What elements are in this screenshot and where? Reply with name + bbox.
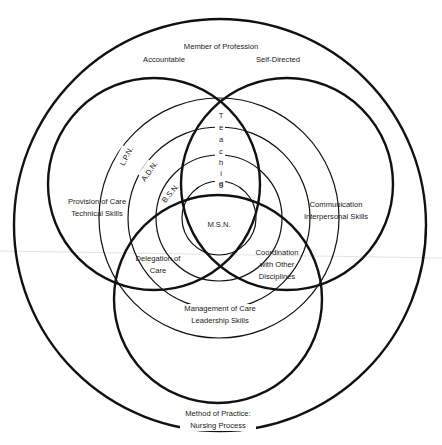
care-label: Care — [150, 266, 166, 275]
communication-label: Communication — [310, 200, 363, 209]
disciplines-label: Disciplines — [259, 272, 295, 281]
self-directed-label: Self-Directed — [256, 55, 300, 64]
msn-label: M.S.N. — [207, 220, 230, 229]
nursing-education-venn-diagram: Member of Profession Accountable Self-Di… — [0, 0, 442, 445]
accountable-label: Accountable — [143, 55, 185, 64]
delegation-of-label: Delegation of — [136, 254, 182, 263]
teaching-letter: e — [219, 123, 223, 132]
leadership-skills-label: Leadership Skills — [191, 316, 249, 325]
management-of-care-label: Management of Care — [184, 304, 255, 313]
method-of-practice-label: Method of Practice: — [185, 409, 250, 418]
with-other-label: with Other — [259, 260, 295, 269]
coordination-label: Coordination — [255, 248, 298, 257]
nursing-process-label: Nursing Process — [190, 421, 246, 430]
teaching-letter: h — [219, 158, 223, 167]
technical-skills-label: Technical Skills — [71, 209, 123, 218]
interpersonal-skills-label: Interpersonal Skills — [304, 212, 368, 221]
teaching-letter: T — [219, 111, 224, 120]
communication-circle — [181, 78, 393, 290]
member-of-profession-label: Member of Profession — [184, 42, 258, 51]
provision-of-care-label: Provision of Care — [68, 197, 126, 206]
teaching-letter: g — [219, 179, 223, 188]
teaching-letter: c — [219, 147, 223, 156]
